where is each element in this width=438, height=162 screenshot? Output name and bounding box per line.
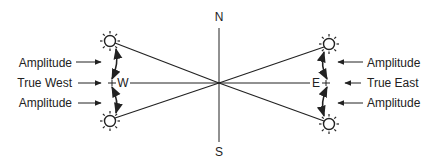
sun-icon bbox=[319, 34, 339, 54]
amplitude-arc-east-lower bbox=[323, 87, 327, 116]
ray-northwest bbox=[115, 43, 219, 83]
right-amplitude-upper-label: Amplitude bbox=[367, 56, 421, 70]
sun-icon bbox=[100, 111, 120, 131]
ray-southwest bbox=[115, 83, 219, 118]
amplitude-arc-west-upper bbox=[112, 49, 117, 79]
amplitude-arc-east-upper bbox=[323, 52, 327, 79]
ray-southeast bbox=[219, 83, 324, 121]
left-amplitude-upper-label: Amplitude bbox=[19, 56, 73, 70]
west-label: W bbox=[117, 76, 129, 90]
left-amplitude-lower-label: Amplitude bbox=[19, 96, 73, 110]
sun-icon bbox=[319, 114, 339, 134]
east-label: E bbox=[312, 76, 320, 90]
sun-icon bbox=[100, 31, 120, 51]
amplitude-arc-west-lower bbox=[112, 87, 117, 113]
right-true-east-label: True East bbox=[367, 76, 419, 90]
south-label: S bbox=[215, 145, 223, 159]
north-label: N bbox=[215, 10, 224, 24]
right-amplitude-lower-label: Amplitude bbox=[367, 96, 421, 110]
left-true-west-label: True West bbox=[17, 76, 72, 90]
amplitude-diagram: N S W E Amplitude True West Amplitude Am… bbox=[0, 0, 438, 162]
ray-northeast bbox=[219, 47, 324, 83]
